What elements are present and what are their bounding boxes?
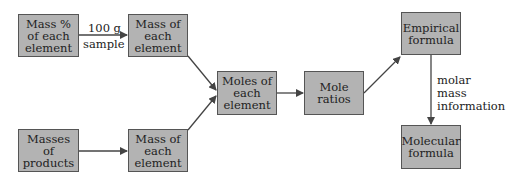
node-label: Mass % of each element: [21, 18, 76, 54]
node-mass-percent: Mass % of each element: [18, 14, 79, 57]
node-label: Moles of each element: [220, 75, 274, 111]
node-label: Masses of products: [21, 133, 76, 169]
edge-label-molar-line3: information: [437, 100, 505, 112]
node-mass-element-top: Mass of each element: [128, 14, 188, 57]
edge-label-sample-line1: 100 g: [88, 22, 121, 34]
node-mass-element-bottom: Mass of each element: [128, 129, 188, 172]
edge-label-molar-line2: mass: [437, 87, 467, 99]
node-label: Molecular formula: [401, 135, 460, 159]
node-mole-ratios: Mole ratios: [304, 71, 364, 115]
flowchart-canvas: Mass % of each element Mass of each elem…: [0, 0, 507, 184]
node-label: Mass of each element: [131, 18, 185, 54]
arrow-mass-element-top-to-moles: [188, 56, 216, 90]
edge-label-sample-line2: sample: [83, 38, 125, 50]
node-moles-element: Moles of each element: [217, 71, 277, 115]
node-label: Empirical formula: [403, 22, 460, 46]
arrow-mass-element-bottom-to-moles: [188, 96, 216, 130]
node-molecular-formula: Molecular formula: [401, 125, 461, 169]
arrow-mole-ratios-to-empirical: [364, 57, 400, 93]
node-label: Mole ratios: [317, 81, 351, 105]
edge-label-molar-line1: molar: [437, 74, 471, 86]
node-masses-products: Masses of products: [18, 129, 79, 172]
node-empirical-formula: Empirical formula: [401, 12, 461, 55]
node-label: Mass of each element: [131, 133, 185, 169]
